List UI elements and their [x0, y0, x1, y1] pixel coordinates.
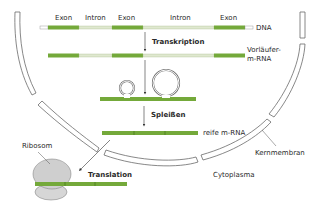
mature-mrna-label: reife m-RNA	[203, 129, 245, 137]
nuclear-membrane-label: Kernmembran	[255, 149, 305, 157]
translation-mrna-strand	[35, 182, 127, 186]
mature-mrna-strand	[102, 131, 198, 135]
splicing-label: Spleißen	[151, 111, 185, 119]
pre-mrna-label-line1: Vorläufer-	[247, 46, 281, 54]
cytoplasm-label: Cytoplasma	[213, 171, 255, 179]
ribosome-label: Ribosom	[22, 142, 52, 150]
pre-mrna-label-line2: m-RNA	[247, 55, 271, 63]
pre-mrna-strand	[48, 54, 245, 58]
translation-label: Translation	[88, 171, 132, 179]
intron-label-1: Intron	[85, 14, 106, 22]
gene-expression-diagram: Exon Intron Exon Intron Exon DNA Transkr…	[0, 0, 321, 204]
exon-label-3: Exon	[220, 14, 237, 22]
splicing-intron-loops	[100, 70, 196, 101]
ribosome	[33, 159, 71, 200]
intron-label-2: Intron	[170, 14, 191, 22]
membrane-pointer	[262, 130, 276, 146]
nuclear-membrane	[15, 12, 305, 166]
transcription-label: Transkription	[152, 38, 204, 46]
dna-strand	[40, 26, 253, 30]
exon-label-1: Exon	[55, 14, 72, 22]
exon-label-2: Exon	[118, 14, 135, 22]
dna-label: DNA	[256, 24, 272, 32]
